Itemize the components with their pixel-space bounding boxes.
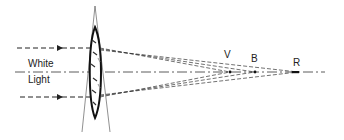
blue-focus-point — [254, 71, 257, 74]
red-focus-point — [292, 71, 299, 73]
red-label: R — [293, 58, 300, 68]
refracted-rays-top — [100, 48, 298, 72]
blue-label: B — [251, 54, 258, 64]
violet-label: V — [224, 50, 231, 60]
white-label: White — [28, 59, 54, 69]
diagram-canvas — [0, 0, 344, 140]
violet-focus-point — [229, 71, 232, 74]
convex-lens — [90, 27, 101, 118]
light-label: Light — [28, 75, 50, 85]
refracted-rays-bottom — [100, 72, 298, 97]
chromatic-aberration-diagram: White Light V B R — [0, 0, 344, 140]
